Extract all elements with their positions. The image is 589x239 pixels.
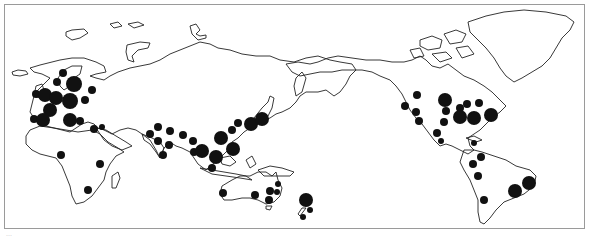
city-marker [159, 151, 167, 159]
city-marker [209, 150, 223, 164]
city-marker [475, 99, 483, 107]
city-marker [522, 176, 536, 190]
city-marker [484, 108, 498, 122]
greenland-outline [468, 10, 574, 82]
novaya-zemlya-outline [126, 42, 150, 62]
city-marker [62, 93, 78, 109]
city-marker [214, 131, 228, 145]
city-marker [166, 127, 174, 135]
city-marker [219, 189, 227, 197]
city-marker [63, 113, 77, 127]
city-marker [154, 123, 162, 131]
city-marker [508, 184, 522, 198]
city-marker [266, 187, 274, 195]
city-marker [415, 117, 423, 125]
city-marker [265, 196, 273, 204]
city-marker [36, 113, 50, 127]
city-marker [53, 78, 61, 86]
city-marker [81, 96, 89, 104]
city-marker [440, 118, 448, 126]
city-marker [49, 91, 63, 105]
city-marker [477, 153, 485, 161]
marker-layer [30, 69, 536, 220]
city-marker [274, 189, 280, 195]
city-marker [179, 131, 187, 139]
africa-outline [26, 126, 124, 204]
city-marker [275, 181, 281, 187]
north-america-outline [286, 56, 506, 154]
city-marker [433, 129, 441, 137]
city-marker [438, 138, 444, 144]
city-marker [189, 137, 197, 145]
city-marker [99, 124, 105, 130]
figure-caption: ... [6, 230, 12, 237]
city-marker [208, 164, 216, 172]
city-marker [413, 91, 421, 99]
city-marker [66, 76, 82, 92]
svalbard-outline [66, 29, 88, 40]
city-marker [195, 144, 209, 158]
iceland-outline [12, 70, 28, 76]
city-marker [463, 100, 471, 108]
city-marker [226, 142, 240, 156]
city-marker [154, 137, 162, 145]
city-marker [469, 160, 477, 168]
city-marker [165, 141, 173, 149]
city-marker [84, 186, 92, 194]
city-marker [480, 196, 488, 204]
city-marker [401, 102, 409, 110]
city-marker [300, 214, 306, 220]
city-marker [234, 119, 242, 127]
city-marker [307, 207, 313, 213]
city-marker [59, 69, 67, 77]
city-marker [412, 108, 420, 116]
city-marker [88, 86, 96, 94]
city-marker [96, 160, 104, 168]
city-marker [474, 172, 482, 180]
city-marker [57, 151, 65, 159]
city-marker [442, 107, 450, 115]
city-marker [255, 112, 269, 126]
world-map [0, 0, 589, 239]
city-marker [453, 110, 467, 124]
city-marker [76, 117, 84, 125]
city-marker [228, 126, 236, 134]
city-marker [467, 111, 481, 125]
city-marker [471, 140, 477, 146]
city-marker [251, 191, 259, 199]
city-marker [438, 93, 452, 107]
city-marker [299, 193, 313, 207]
city-marker [146, 130, 154, 138]
city-marker [90, 125, 98, 133]
